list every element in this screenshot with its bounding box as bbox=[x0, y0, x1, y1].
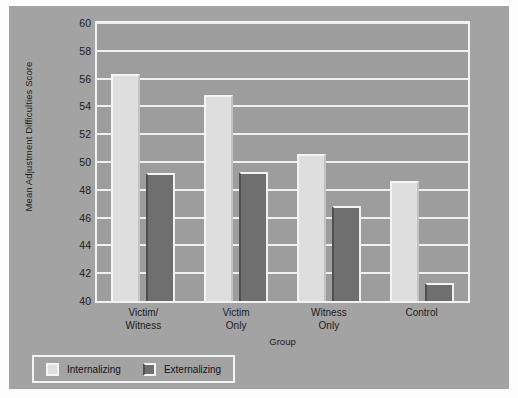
y-tick-label: 42 bbox=[49, 267, 91, 279]
figure-panel: Mean Adjustment Difficulties Score 60585… bbox=[9, 6, 509, 389]
y-tick-label: 54 bbox=[49, 100, 91, 112]
bar-internalizing-1 bbox=[204, 95, 233, 301]
y-axis-title: Mean Adjustment Difficulties Score bbox=[23, 0, 34, 277]
y-tick-label: 58 bbox=[49, 45, 91, 57]
bar-externalizing-2 bbox=[332, 206, 361, 301]
gridline bbox=[97, 22, 468, 24]
plot-area bbox=[97, 23, 468, 301]
y-tick-label: 44 bbox=[49, 239, 91, 251]
gridline bbox=[97, 161, 468, 163]
gridline bbox=[97, 133, 468, 135]
bar-externalizing-3 bbox=[425, 283, 454, 301]
x-axis-tick-labels: Victim/ WitnessVictim OnlyWitness OnlyCo… bbox=[95, 306, 470, 340]
chart-legend: InternalizingExternalizing bbox=[32, 355, 235, 383]
y-tick-label: 56 bbox=[49, 73, 91, 85]
legend-item-externalizing[interactable]: Externalizing bbox=[143, 363, 221, 376]
y-tick-label: 52 bbox=[49, 128, 91, 140]
y-tick-label: 50 bbox=[49, 156, 91, 168]
gridline bbox=[97, 78, 468, 80]
legend-swatch-icon bbox=[143, 363, 156, 376]
x-tick-label: Victim/ Witness bbox=[126, 306, 162, 332]
bar-internalizing-2 bbox=[297, 154, 326, 301]
x-tick-label: Control bbox=[406, 306, 438, 319]
y-tick-label: 60 bbox=[49, 17, 91, 29]
bar-internalizing-3 bbox=[390, 181, 419, 301]
bar-internalizing-0 bbox=[111, 74, 140, 301]
x-tick-label: Witness Only bbox=[311, 306, 347, 332]
y-axis-tick-labels: 6058565452504846444240 bbox=[43, 21, 91, 303]
bar-externalizing-1 bbox=[239, 172, 268, 301]
y-tick-label: 46 bbox=[49, 212, 91, 224]
x-tick-label: Victim Only bbox=[223, 306, 250, 332]
gridline bbox=[97, 50, 468, 52]
plot-frame bbox=[95, 21, 470, 303]
legend-item-internalizing[interactable]: Internalizing bbox=[46, 363, 121, 376]
legend-label: Internalizing bbox=[67, 364, 121, 375]
legend-swatch-icon bbox=[46, 363, 59, 376]
legend-label: Externalizing bbox=[164, 364, 221, 375]
y-tick-label: 40 bbox=[49, 295, 91, 307]
x-axis-title: Group bbox=[95, 336, 470, 347]
bar-externalizing-0 bbox=[146, 173, 175, 301]
y-tick-label: 48 bbox=[49, 184, 91, 196]
gridline bbox=[97, 105, 468, 107]
